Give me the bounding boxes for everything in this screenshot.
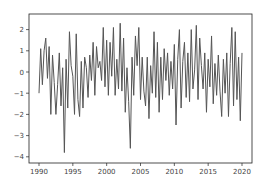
x-axis: 1990199520002005201020152020 [30, 163, 251, 176]
y-tick-label: −2 [14, 111, 24, 119]
x-tick-label: 1995 [64, 168, 82, 176]
y-axis: 210−1−2−3−4 [14, 26, 29, 161]
y-tick-label: 0 [20, 69, 24, 77]
series-line-group [39, 23, 242, 152]
x-tick-label: 2020 [233, 168, 251, 176]
y-tick-label: −4 [14, 153, 25, 161]
x-tick-label: 2010 [165, 168, 183, 176]
y-tick-label: −3 [14, 132, 24, 140]
x-tick-label: 2015 [199, 168, 217, 176]
line-chart: 1990199520002005201020152020 210−1−2−3−4 [0, 0, 265, 186]
x-tick-label: 2005 [132, 168, 150, 176]
y-tick-label: −1 [14, 90, 24, 98]
series-line-0 [39, 23, 242, 152]
y-tick-label: 2 [20, 26, 24, 34]
y-tick-label: 1 [20, 47, 24, 55]
x-tick-label: 2000 [98, 168, 116, 176]
x-tick-label: 1990 [30, 168, 48, 176]
